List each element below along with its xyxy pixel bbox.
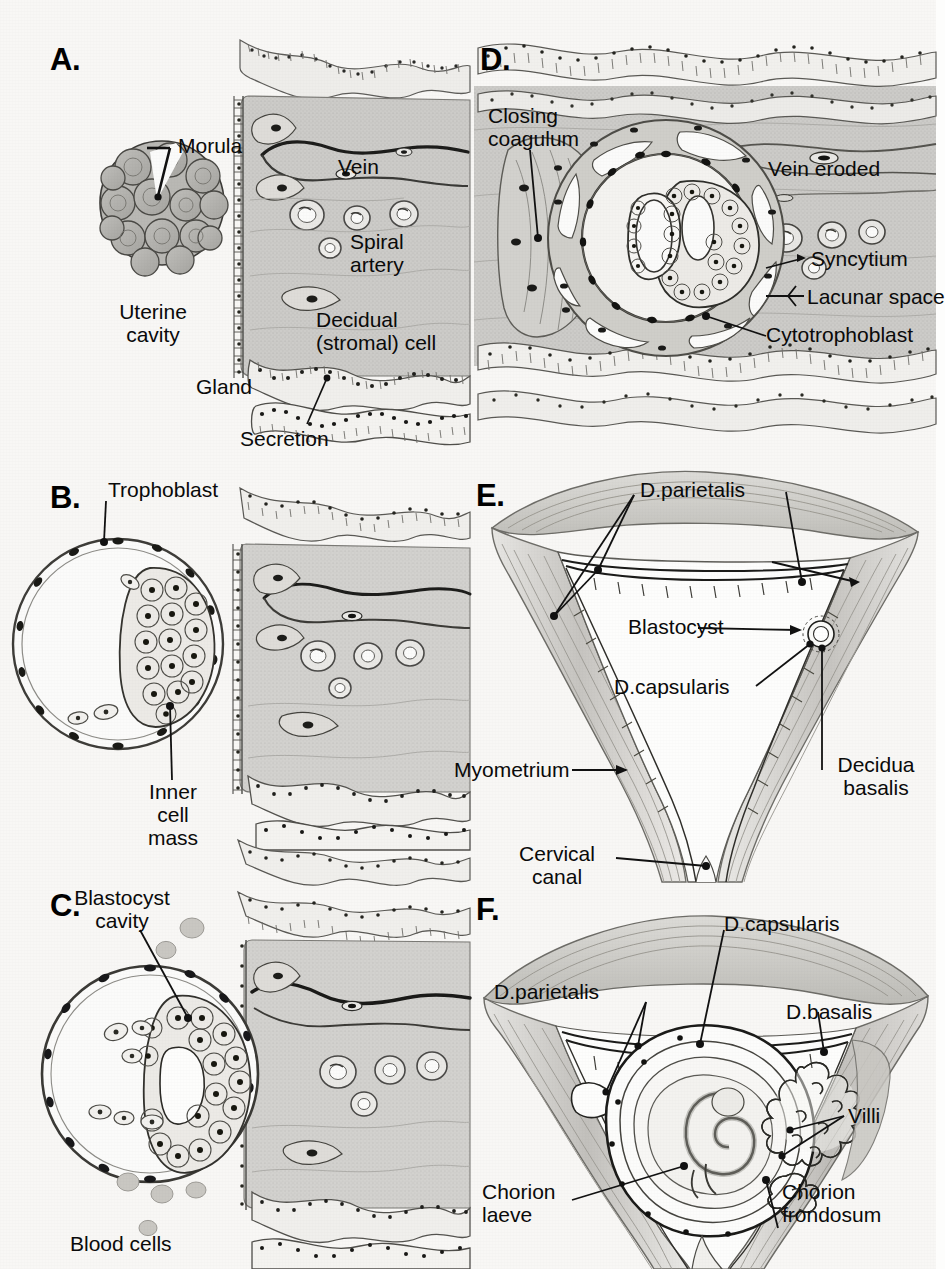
label-d-basalis-f: D.basalis <box>786 1000 872 1023</box>
panel-d-letter: D. <box>480 42 510 78</box>
label-inner-cell-mass: Inner cell mass <box>118 780 228 849</box>
label-d-capsularis-f: D.capsularis <box>724 912 840 935</box>
label-d-parietalis-f: D.parietalis <box>494 980 599 1003</box>
label-secretion: Secretion <box>240 427 329 450</box>
panel-c: C. <box>0 850 470 1269</box>
label-spiral-artery: Spiral artery <box>350 230 404 276</box>
label-blastocyst-cavity-c: Blastocyst cavity <box>32 886 212 932</box>
panel-e-letter: E. <box>476 478 504 514</box>
label-cytotrophoblast: Cytotrophoblast <box>766 323 913 346</box>
label-lacunar-space: Lacunar space <box>807 285 945 308</box>
panel-a-letter: A. <box>50 42 80 78</box>
label-gland: Gland <box>196 375 252 398</box>
label-syncytium: Syncytium <box>811 247 908 270</box>
decidua-block-c <box>238 840 470 1269</box>
blastocyst-b <box>13 538 223 750</box>
label-decidua-basalis-e: Decidua basalis <box>816 753 936 799</box>
panel-d: D. <box>466 0 936 470</box>
label-closing-coagulum: Closing coagulum <box>488 104 579 150</box>
panel-b-illustration <box>0 470 470 850</box>
panel-f-letter: F. <box>476 892 499 928</box>
label-myometrium-e: Myometrium <box>454 758 570 781</box>
label-blood-cells-c: Blood cells <box>70 1232 172 1255</box>
morula-a <box>100 141 228 276</box>
panel-b: B. <box>0 470 470 850</box>
panel-f: F. <box>466 880 936 1269</box>
label-decidual-cell: Decidual (stromal) cell <box>316 308 436 354</box>
panel-a: A. <box>0 0 470 470</box>
label-d-parietalis-e: D.parietalis <box>640 478 745 501</box>
label-villi-f: Villi <box>848 1104 880 1127</box>
secretion-pointer-dot <box>324 375 331 382</box>
label-vein-eroded: Vein eroded <box>768 157 880 180</box>
label-d-capsularis-e: D.capsularis <box>614 675 730 698</box>
label-chorion-frondosum-f: Chorion frondosum <box>782 1180 881 1226</box>
blastocyst-c <box>42 964 258 1182</box>
panel-e: E. <box>466 470 936 890</box>
label-trophoblast: Trophoblast <box>108 478 218 501</box>
label-blastocyst-e: Blastocyst <box>628 615 724 638</box>
panel-d-illustration <box>466 0 936 470</box>
label-uterine-cavity: Uterine cavity <box>78 300 228 346</box>
panel-b-letter: B. <box>50 480 80 516</box>
label-vein: Vein <box>338 155 379 178</box>
label-chorion-laeve-f: Chorion laeve <box>482 1180 556 1226</box>
decidua-block-b <box>233 488 470 850</box>
label-morula: Morula <box>178 134 242 157</box>
